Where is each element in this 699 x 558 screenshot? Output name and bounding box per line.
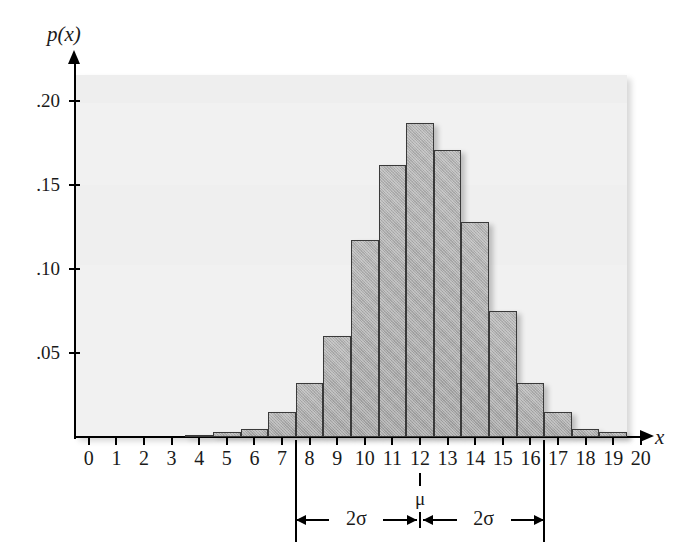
x-tick-mark	[364, 437, 366, 445]
panel-band-top	[75, 75, 627, 103]
histogram-bar	[461, 222, 489, 437]
sigma-right-left-arrowhead-icon	[423, 515, 433, 525]
x-tick-label: 11	[377, 447, 407, 469]
x-tick-mark	[171, 437, 173, 445]
histogram-bar	[599, 432, 627, 437]
x-tick-label: 16	[515, 447, 545, 469]
x-tick-mark	[88, 437, 90, 445]
sigma-left-right-arrowhead-icon	[407, 515, 417, 525]
x-tick-label: 6	[239, 447, 269, 469]
y-tick-mark	[69, 352, 80, 354]
mu-pointer-tick	[419, 473, 421, 486]
histogram-bar	[241, 429, 269, 437]
x-tick-label: 15	[488, 447, 518, 469]
x-tick-mark	[640, 437, 642, 445]
histogram-bar	[213, 432, 241, 437]
x-tick-mark	[115, 437, 117, 445]
sigma-left-left-arrowhead-icon	[296, 515, 306, 525]
x-tick-label: 9	[322, 447, 352, 469]
chart-figure: p(x) x .20.15.10.05 01234567891011121314…	[0, 0, 699, 558]
x-tick-label: 0	[74, 447, 104, 469]
histogram-bar	[323, 336, 351, 437]
y-axis-line	[74, 62, 76, 439]
x-tick-label: 2	[129, 447, 159, 469]
sigma-left-boundary-line	[295, 440, 297, 542]
y-tick-label: .15	[16, 175, 60, 194]
histogram-bar	[268, 412, 296, 437]
mu-label: μ	[405, 489, 435, 508]
x-tick-label: 8	[295, 447, 325, 469]
x-tick-label: 18	[571, 447, 601, 469]
histogram-bar	[351, 240, 379, 437]
y-axis-title: p(x)	[47, 22, 81, 47]
x-tick-label: 1	[101, 447, 131, 469]
sigma-left-label: 2σ	[329, 508, 383, 528]
sigma-right-boundary-line	[543, 440, 545, 542]
sigma-right-right-arrowhead-icon	[534, 515, 544, 525]
x-tick-mark	[529, 437, 531, 445]
y-tick-label: .05	[16, 343, 60, 362]
x-tick-label: 14	[460, 447, 490, 469]
histogram-bar	[185, 435, 213, 437]
x-tick-mark	[281, 437, 283, 445]
histogram-bar	[296, 383, 324, 437]
histogram-bar	[434, 150, 462, 437]
x-tick-mark	[253, 437, 255, 445]
x-tick-label: 13	[433, 447, 463, 469]
y-tick-label: .10	[16, 259, 60, 278]
y-tick-mark	[69, 184, 80, 186]
x-tick-mark	[474, 437, 476, 445]
histogram-bar	[572, 429, 600, 437]
x-tick-mark	[557, 437, 559, 445]
x-tick-label: 5	[212, 447, 242, 469]
x-tick-mark	[447, 437, 449, 445]
y-tick-label: .20	[16, 91, 60, 110]
sigma-right-label: 2σ	[457, 508, 511, 528]
x-tick-label: 10	[350, 447, 380, 469]
x-tick-label: 20	[626, 447, 656, 469]
x-axis-arrow-icon	[640, 430, 654, 442]
histogram-bar	[544, 412, 572, 437]
x-tick-mark	[198, 437, 200, 445]
x-tick-mark	[143, 437, 145, 445]
x-axis-title: x	[655, 425, 664, 450]
y-tick-mark	[69, 268, 80, 270]
x-tick-label: 7	[267, 447, 297, 469]
y-tick-mark	[69, 100, 80, 102]
x-tick-label: 4	[184, 447, 214, 469]
mu-center-line	[419, 512, 421, 528]
x-tick-mark	[226, 437, 228, 445]
x-tick-mark	[612, 437, 614, 445]
histogram-bar	[517, 383, 545, 437]
histogram-bar	[406, 123, 434, 437]
y-axis-arrow-icon	[68, 50, 80, 64]
x-tick-mark	[391, 437, 393, 445]
x-tick-mark	[309, 437, 311, 445]
x-tick-mark	[585, 437, 587, 445]
x-tick-label: 3	[157, 447, 187, 469]
x-tick-mark	[336, 437, 338, 445]
x-tick-label: 17	[543, 447, 573, 469]
histogram-bar	[489, 311, 517, 437]
x-tick-mark	[502, 437, 504, 445]
histogram-bar	[379, 165, 407, 437]
x-tick-label: 12	[405, 447, 435, 469]
x-tick-label: 19	[598, 447, 628, 469]
x-tick-mark	[419, 437, 421, 445]
